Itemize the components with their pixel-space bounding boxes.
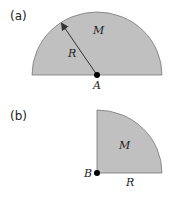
mass-label-b: M [118, 139, 131, 152]
radius-label-b: R [125, 176, 134, 189]
figure-b-label: (b) [10, 109, 27, 123]
figure-a: (a) M R A [10, 9, 162, 92]
figure-a-label: (a) [10, 9, 27, 23]
figure-b: (b) M B R [10, 109, 162, 189]
semicircle [32, 12, 162, 75]
point-a [94, 72, 100, 78]
radius-label-a: R [67, 47, 76, 60]
point-label-b: B [83, 167, 92, 180]
mass-label-a: M [92, 24, 105, 37]
point-b [94, 170, 100, 176]
diagram: (a) M R A (b) M B R [0, 0, 173, 197]
point-label-a: A [92, 79, 101, 92]
